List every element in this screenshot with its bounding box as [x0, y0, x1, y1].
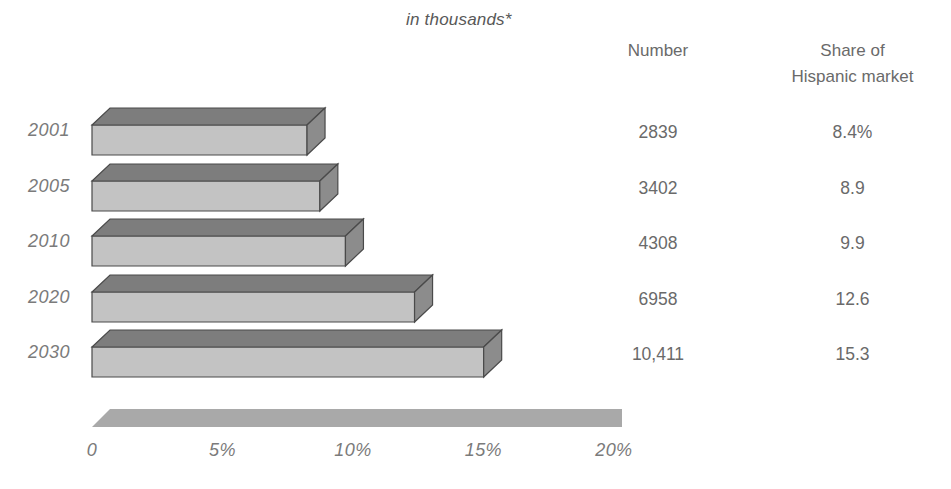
share-value-2001: 8.4%	[760, 122, 945, 143]
bar-2010	[92, 219, 363, 266]
year-label-2005: 2005	[28, 176, 70, 197]
chart-figure: in thousands* Number Share of Hispanic m…	[0, 0, 951, 489]
x-tick-10pct: 10%	[313, 440, 393, 461]
bar-top-face-2010	[92, 219, 363, 236]
share-value-2005: 8.9	[760, 178, 945, 199]
x-tick-5pct: 5%	[182, 440, 262, 461]
bar-front-face-2020	[92, 292, 415, 322]
bar-2001	[92, 108, 325, 155]
bar-top-face-2030	[92, 330, 502, 347]
axis-slab	[92, 409, 622, 427]
x-tick-0: 0	[52, 440, 132, 461]
year-label-2001: 2001	[28, 120, 70, 141]
bar-top-face-2001	[92, 108, 325, 125]
bar-top-face-2005	[92, 164, 338, 181]
bar-front-face-2010	[92, 236, 345, 266]
axis-baseline	[92, 409, 622, 427]
bar-top-face-2020	[92, 275, 433, 292]
bar-2020	[92, 275, 433, 322]
bar-2030	[92, 330, 502, 377]
bars-group	[92, 108, 502, 377]
number-value-2020: 6958	[573, 289, 743, 310]
number-value-2030: 10,411	[573, 344, 743, 365]
number-value-2001: 2839	[573, 122, 743, 143]
bar-front-face-2030	[92, 347, 484, 377]
share-value-2030: 15.3	[760, 344, 945, 365]
year-label-2010: 2010	[28, 231, 70, 252]
x-tick-15pct: 15%	[443, 440, 523, 461]
x-tick-20pct: 20%	[574, 440, 654, 461]
share-value-2010: 9.9	[760, 233, 945, 254]
bar-front-face-2001	[92, 125, 307, 155]
share-value-2020: 12.6	[760, 289, 945, 310]
year-label-2020: 2020	[28, 287, 70, 308]
number-value-2010: 4308	[573, 233, 743, 254]
bar-2005	[92, 164, 338, 211]
bar-front-face-2005	[92, 181, 320, 211]
year-label-2030: 2030	[28, 342, 70, 363]
number-value-2005: 3402	[573, 178, 743, 199]
